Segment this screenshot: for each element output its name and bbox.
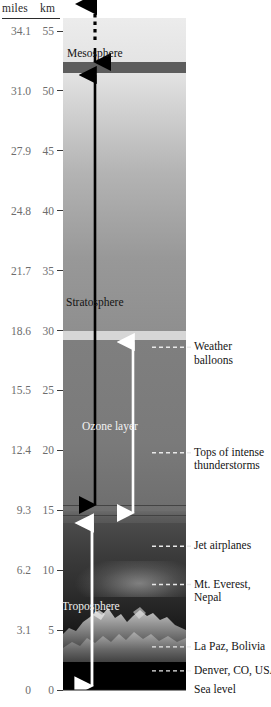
axis-tick-miles: 0 — [0, 683, 31, 697]
hairline-tropopause — [63, 515, 186, 516]
callout-label: Denver, CO, USA — [194, 664, 271, 678]
label-troposphere: Troposphere — [62, 600, 120, 612]
axis-tick-km: 55 — [33, 24, 54, 38]
axis-tick: 24.840 — [0, 204, 63, 218]
axis-tick-km: 10 — [33, 563, 54, 577]
axis-tick-miles: 27.9 — [0, 144, 31, 158]
callout-label: Jet airplanes — [194, 539, 251, 553]
axis-tick: 27.945 — [0, 144, 63, 158]
callout-line-2: Nepal — [194, 591, 251, 605]
axis-tick-km: 15 — [33, 503, 54, 517]
axis-header-miles: miles — [2, 2, 28, 14]
axis-tick: 00 — [0, 683, 63, 697]
axis-tick-km: 0 — [33, 683, 54, 697]
callout-label: La Paz, Bolivia — [194, 640, 265, 654]
callout-line-2: balloons — [194, 354, 233, 368]
axis-tick: 18.630 — [0, 324, 63, 338]
band-ozone-top — [63, 331, 186, 340]
axis-tick: 21.735 — [0, 264, 63, 278]
atmosphere-column — [63, 18, 186, 690]
axis-tick-km: 20 — [33, 443, 54, 457]
callout-line-1: Sea level — [194, 683, 236, 697]
axis-tick-km: 35 — [33, 264, 54, 278]
axis-tick-km: 50 — [33, 84, 54, 98]
axis-tick: 12.420 — [0, 443, 63, 457]
axis-tick-miles: 31.0 — [0, 84, 31, 98]
label-stratosphere: Stratosphere — [66, 296, 123, 308]
axis-tick-miles: 12.4 — [0, 443, 31, 457]
band-stratopause — [63, 62, 186, 73]
axis-tick-km: 40 — [33, 204, 54, 218]
callout-line-1: La Paz, Bolivia — [194, 640, 265, 654]
callout-line-1: Weather — [194, 340, 233, 354]
axis-tick-miles: 15.5 — [0, 383, 31, 397]
callout-line-1: Tops of intense — [194, 446, 264, 460]
callout-line-2: thunderstorms — [194, 459, 264, 473]
label-ozone-layer: Ozone layer — [82, 420, 138, 432]
band-tropopause — [63, 511, 186, 523]
callout-label: Mt. Everest,Nepal — [194, 578, 251, 605]
callout-label: Sea level — [194, 683, 236, 697]
axis-tick-km: 5 — [33, 623, 54, 637]
axis-tick-km: 45 — [33, 144, 54, 158]
axis-tick: 15.525 — [0, 383, 63, 397]
axis-tick: 34.155 — [0, 24, 63, 38]
axis-tick-miles: 24.8 — [0, 204, 31, 218]
axis-header: miles km — [0, 2, 63, 22]
axis-tick-km: 25 — [33, 383, 54, 397]
axis-tick-miles: 3.1 — [0, 623, 31, 637]
axis-tick: 9.315 — [0, 503, 63, 517]
axis-tick-km: 30 — [33, 324, 54, 338]
axis-tick-miles: 34.1 — [0, 24, 31, 38]
axis-tick: 3.15 — [0, 623, 63, 637]
hairline-upper-tropopause — [63, 505, 186, 506]
callout-label: Weatherballoons — [194, 340, 233, 367]
callout-line-1: Jet airplanes — [194, 539, 251, 553]
atmosphere-diagram: miles km 34.15531.05027.94524.84021.7351… — [0, 0, 271, 707]
label-mesosphere: Mesosphere — [67, 47, 123, 59]
axis-tick-miles: 6.2 — [0, 563, 31, 577]
axis-tick-miles: 21.7 — [0, 264, 31, 278]
callout-label: Tops of intensethunderstorms — [194, 446, 264, 473]
axis-header-rule — [2, 18, 60, 19]
axis-tick: 31.050 — [0, 84, 63, 98]
axis-tick-miles: 18.6 — [0, 324, 31, 338]
callout-line-1: Denver, CO, USA — [194, 664, 271, 678]
axis-tick-miles: 9.3 — [0, 503, 31, 517]
mountain-silhouette-icon — [63, 570, 186, 690]
callout-line-1: Mt. Everest, — [194, 578, 251, 592]
band-stratosphere-upper — [63, 73, 186, 331]
axis-header-km: km — [40, 2, 55, 14]
axis-tick: 6.210 — [0, 563, 63, 577]
